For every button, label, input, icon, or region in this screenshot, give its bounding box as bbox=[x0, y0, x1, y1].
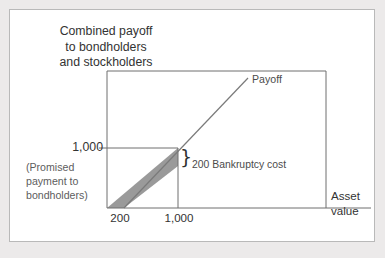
promised-payment-note-line-2: payment to bbox=[26, 174, 108, 188]
payoff-line bbox=[124, 78, 248, 208]
x-axis-title-line-1: Asset bbox=[331, 188, 381, 203]
chart-heading: Combined payoff to bondholders and stock… bbox=[36, 24, 176, 71]
bankruptcy-cost-wedge bbox=[107, 148, 178, 208]
promised-payment-note: (Promised payment to bondholders) bbox=[26, 160, 108, 203]
x-axis-tick-label-1000: 1,000 bbox=[156, 211, 202, 226]
chart-heading-line-3: and stockholders bbox=[36, 55, 176, 71]
promised-payment-note-line-3: bondholders) bbox=[26, 188, 108, 202]
promised-payment-note-line-1: (Promised bbox=[26, 160, 108, 174]
x-axis-title-line-2: value bbox=[331, 203, 381, 218]
chart-heading-line-2: to bondholders bbox=[36, 40, 176, 56]
chart-heading-line-1: Combined payoff bbox=[36, 24, 176, 40]
figure-container: Combined payoff to bondholders and stock… bbox=[0, 0, 385, 258]
bankruptcy-cost-label: 200 Bankruptcy cost bbox=[192, 158, 286, 171]
payoff-line-label: Payoff bbox=[252, 73, 282, 87]
bankruptcy-cost-brace: } bbox=[180, 148, 192, 167]
x-axis-title: Asset value bbox=[331, 188, 381, 218]
y-axis-tick-label-1000: 1,000 bbox=[47, 140, 103, 156]
x-axis-tick-label-200: 200 bbox=[100, 211, 140, 226]
